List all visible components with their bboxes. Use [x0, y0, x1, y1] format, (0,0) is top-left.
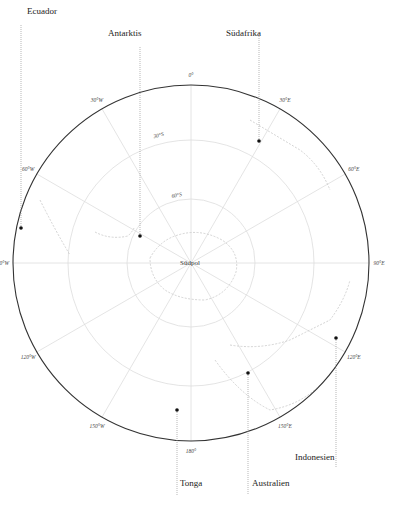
coastline: [250, 120, 330, 190]
place-label-südafrika: Südafrika: [226, 28, 261, 38]
coastline: [95, 228, 134, 237]
longitude-label: 30°E: [278, 97, 291, 103]
longitude-label: 120°W: [21, 354, 36, 360]
longitude-label: 180°: [186, 448, 197, 454]
latitude-label: 30°S: [152, 131, 165, 140]
place-marker[interactable]: [19, 226, 23, 230]
longitude-label: 60°E: [348, 166, 360, 172]
longitude-label: 0°: [189, 72, 195, 78]
coastline: [40, 200, 70, 255]
place-marker[interactable]: [334, 336, 338, 340]
place-marker[interactable]: [257, 139, 261, 143]
meridian-line: [37, 174, 191, 263]
longitude-label: 30°W: [90, 97, 104, 103]
place-label-indonesien: Indonesien: [295, 452, 335, 462]
meridian-line: [37, 263, 191, 352]
meridian-line: [191, 174, 345, 263]
longitude-label: 150°W: [89, 423, 104, 429]
place-label-tonga: Tonga: [180, 478, 202, 488]
meridian-line: [191, 263, 345, 352]
meridian-line: [102, 263, 191, 417]
longitude-label: 60°W: [22, 166, 35, 172]
meridian-line: [102, 109, 191, 263]
south-pole-label: Südpol: [180, 259, 200, 267]
longitude-label: 90°W: [0, 260, 10, 266]
longitude-label: 90°E: [373, 260, 385, 266]
longitude-label: 120°E: [347, 354, 361, 360]
coastline: [215, 360, 320, 410]
place-marker[interactable]: [246, 371, 250, 375]
place-label-australien: Australien: [252, 478, 290, 488]
place-markers: [19, 139, 338, 412]
place-marker[interactable]: [138, 234, 142, 238]
polar-map: 0°30°E60°E90°E120°E150°E180°150°W120°W90…: [0, 0, 406, 522]
longitude-label: 150°E: [278, 423, 292, 429]
meridian-line: [191, 263, 280, 417]
latitude-label: 60°S: [171, 191, 183, 199]
place-label-ecuador: Ecuador: [27, 6, 57, 16]
coastline: [230, 280, 350, 347]
meridian-line: [191, 109, 280, 263]
place-label-antarktis: Antarktis: [108, 28, 142, 38]
place-marker[interactable]: [175, 408, 179, 412]
